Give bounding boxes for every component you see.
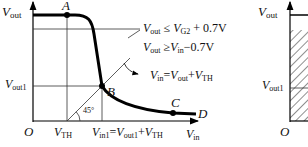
point-b-marker [99,83,105,89]
right-y-axis-label: Vout [258,4,278,20]
point-a-label: A [61,0,70,13]
cond1-leader [128,30,140,38]
mosfet-transfer-characteristic-figure: Vout A B C D O Vout1 VTH 45° Vin1=Vout1+… [0,0,308,147]
vth-label: VTH [54,125,72,140]
condition-vin-eq-vout-plus-vth: Vin=Vout+VTH [150,68,213,83]
right-vout1-label: Vout1 [262,78,284,93]
angle-arc [76,112,80,121]
condition-vout-ge-vin: Vout ≥Vin−0.7V [143,40,215,55]
point-c-label: C [171,95,180,110]
angle-label: 45° [83,106,94,115]
vin1-label: Vin1=Vout1+VTH [92,125,163,140]
vout1-label: Vout1 [5,77,27,92]
origin-label: O [24,124,34,139]
y-axis-label: Vout [2,4,22,20]
cond3-arrow [124,63,138,74]
point-b-label: B [107,84,115,99]
x-axis-label: Vin [186,127,200,142]
right-diagram: Vout Vout1 O [258,2,308,139]
right-origin-label: O [280,124,290,139]
condition-vout-le-vg2: Vout ≤ VG2 + 0.7V [143,21,227,36]
hatched-region [290,30,308,121]
point-c-marker [170,110,176,116]
left-diagram: Vout A B C D O Vout1 VTH 45° Vin1=Vout1+… [2,0,227,142]
point-d-label: D [197,106,208,121]
